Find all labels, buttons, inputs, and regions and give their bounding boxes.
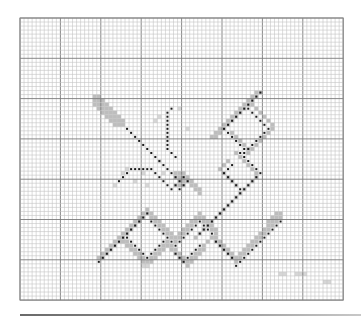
zigzag-stitch xyxy=(133,252,137,256)
zigzag-stitch xyxy=(125,244,129,248)
light-stitch xyxy=(303,272,307,276)
zigzag-stitch xyxy=(186,260,190,264)
zigzag-stitch xyxy=(275,211,279,215)
stitch-dot xyxy=(203,229,205,231)
diamond-stitch xyxy=(246,99,250,103)
stitch-dot xyxy=(251,112,253,114)
diamond-stitch xyxy=(210,135,214,139)
stitch-dot xyxy=(235,116,237,118)
stitch-dot xyxy=(138,140,140,142)
stitch-dot xyxy=(166,144,168,146)
stitch-dot xyxy=(247,104,249,106)
stitch-dot xyxy=(146,148,148,150)
stitch-dot xyxy=(179,257,181,259)
leaf-stitch xyxy=(101,111,105,115)
diamond-stitch xyxy=(250,103,254,107)
cross-stitch-chart xyxy=(0,0,361,318)
stitch-dot xyxy=(175,253,177,255)
zigzag-stitch xyxy=(262,228,266,232)
zigzag-stitch xyxy=(279,215,283,219)
zigzag-stitch xyxy=(218,240,222,244)
stitch-dot xyxy=(235,140,237,142)
stitch-dot xyxy=(255,140,257,142)
zigzag-stitch xyxy=(250,244,254,248)
zigzag-stitch xyxy=(182,256,186,260)
zigzag-stitch xyxy=(210,236,214,240)
zigzag-stitch xyxy=(145,207,149,211)
stitch-dot xyxy=(195,249,197,251)
stitch-dot xyxy=(166,124,168,126)
diamond-stitch xyxy=(242,159,246,163)
leaf-stitch xyxy=(105,115,109,119)
leaf-stitch xyxy=(117,115,121,119)
stitch-dot xyxy=(134,245,136,247)
zigzag-stitch xyxy=(178,252,182,256)
zigzag-stitch xyxy=(121,232,125,236)
leaf-stitch xyxy=(97,99,101,103)
stitch-dot xyxy=(158,245,160,247)
stitch-dot xyxy=(191,253,193,255)
zigzag-stitch xyxy=(275,215,279,219)
zigzag-stitch xyxy=(266,220,270,224)
stitch-dot xyxy=(259,120,261,122)
stitch-dot xyxy=(276,225,278,227)
stitch-dot xyxy=(166,128,168,130)
diamond-stitch xyxy=(266,119,270,123)
stitch-dot xyxy=(154,225,156,227)
stitch-dot xyxy=(126,233,128,235)
zigzag-stitch xyxy=(258,236,262,240)
zigzag-stitch xyxy=(194,252,198,256)
stitch-dot xyxy=(138,249,140,251)
zigzag-stitch xyxy=(157,220,161,224)
stitch-dot xyxy=(170,108,172,110)
stitch-dot xyxy=(162,233,164,235)
stitch-dot xyxy=(239,112,241,114)
diamond-stitch xyxy=(266,131,270,135)
stitch-dot xyxy=(118,180,120,182)
leaf-stitch xyxy=(113,119,117,123)
leaf-stitch xyxy=(97,103,101,107)
stitch-dot xyxy=(150,221,152,223)
stitch-dot xyxy=(146,168,148,170)
diamond-stitch xyxy=(242,143,246,147)
leaf-stitch xyxy=(93,99,97,103)
diamond-stitch xyxy=(234,151,238,155)
diamond-stitch xyxy=(270,123,274,127)
zigzag-stitch xyxy=(210,228,214,232)
leaf-stitch xyxy=(93,95,97,99)
zigzag-stitch xyxy=(270,220,274,224)
stitch-dot xyxy=(175,245,177,247)
diamond-stitch xyxy=(242,103,246,107)
stitch-dot xyxy=(255,116,257,118)
zigzag-stitch xyxy=(149,211,153,215)
stitch-dot xyxy=(114,245,116,247)
stitch-dot xyxy=(231,180,233,182)
stitch-dot xyxy=(138,168,140,170)
cluster-stitch xyxy=(178,183,182,187)
zigzag-stitch xyxy=(125,240,129,244)
stitch-dot xyxy=(251,144,253,146)
zigzag-stitch xyxy=(190,260,194,264)
zigzag-stitch xyxy=(161,228,165,232)
cluster-stitch xyxy=(194,187,198,191)
light-stitch xyxy=(161,171,165,175)
light-stitch xyxy=(178,107,182,111)
light-stitch xyxy=(327,280,331,284)
stitch-dot xyxy=(247,148,249,150)
stitch-dot xyxy=(255,168,257,170)
stitch-dot xyxy=(134,168,136,170)
zigzag-stitch xyxy=(165,232,169,236)
stitch-dot xyxy=(154,156,156,158)
zigzag-stitch xyxy=(129,248,133,252)
stitch-dot xyxy=(146,212,148,214)
leaf-stitch xyxy=(93,103,97,107)
stitch-dot xyxy=(231,257,233,259)
zigzag-stitch xyxy=(149,215,153,219)
zigzag-stitch xyxy=(178,232,182,236)
diamond-stitch xyxy=(250,147,254,151)
stitch-dot xyxy=(187,180,189,182)
stitch-dot xyxy=(207,229,209,231)
stitch-dot xyxy=(259,241,261,243)
stitch-dot xyxy=(243,156,245,158)
stitch-dot xyxy=(231,120,233,122)
